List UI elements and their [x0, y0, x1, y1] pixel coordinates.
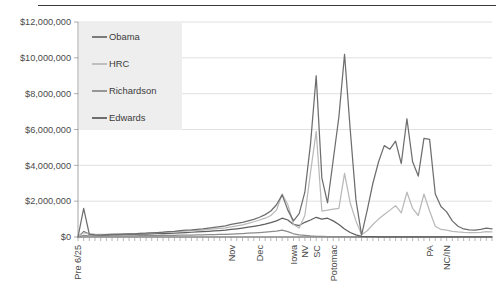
line-chart: $0$2,000,000$4,000,000$6,000,000$8,000,0… — [0, 0, 504, 304]
x-axis-tick-label: SC — [312, 245, 322, 258]
x-axis-tick-label: Pre 6/25 — [73, 245, 83, 280]
x-axis-tick-label: Potomac — [329, 245, 339, 282]
x-axis-tick-label: Nov — [227, 245, 237, 262]
legend-label-richardson: Richardson — [109, 85, 156, 96]
y-axis-tick-label: $0 — [61, 232, 71, 242]
y-axis-tick-label: $4,000,000 — [25, 161, 71, 171]
legend-label-obama: Obama — [109, 31, 141, 42]
chart-container: $0$2,000,000$4,000,000$6,000,000$8,000,0… — [0, 0, 504, 304]
x-axis-tick-label: NC/IN — [442, 245, 452, 270]
legend-label-edwards: Edwards — [109, 112, 146, 123]
y-axis-tick-label: $2,000,000 — [25, 196, 71, 206]
x-axis-tick-label: PA — [425, 244, 435, 256]
y-axis-tick-labels: $0$2,000,000$4,000,000$6,000,000$8,000,0… — [20, 17, 78, 242]
y-axis-tick-label: $8,000,000 — [25, 89, 71, 99]
x-axis-tick-marks — [78, 237, 492, 241]
x-axis-tick-label: NV — [300, 244, 310, 258]
x-axis-tick-label: Dec — [255, 245, 265, 262]
y-axis-tick-label: $12,000,000 — [20, 17, 71, 27]
x-axis-tick-label: Iowa — [289, 244, 299, 264]
x-axis-tick-labels: Pre 6/25NovDecIowaNVSCPotomacPANC/IN — [73, 244, 452, 281]
y-axis-tick-label: $10,000,000 — [20, 53, 71, 63]
legend-label-hrc: HRC — [109, 58, 130, 69]
y-axis-tick-label: $6,000,000 — [25, 125, 71, 135]
